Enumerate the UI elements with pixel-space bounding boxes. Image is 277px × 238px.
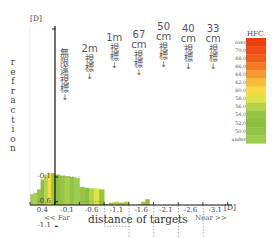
legend-label: 52.0 [229,121,246,126]
legend-label: 68.0 [229,56,246,61]
target-label: 50cm視標↓ [154,22,174,69]
legend-label: 60.0 [229,88,246,93]
data-bar [65,176,70,205]
data-bar [74,178,79,205]
legend-swatch [246,54,266,62]
x-tick-label: -0.1 [55,206,79,214]
legend-swatch [246,46,266,54]
legend-swatch [246,111,266,119]
legend-title: HFC [247,30,263,38]
target-label: 1m視標↓ [104,33,124,70]
legend-label: 66.0 [229,64,246,69]
y-tick-label: -0.1 [27,172,51,180]
target-label: 無限遠視標↓ [55,48,75,102]
x-unit-label: [D] [224,203,236,212]
legend-swatch [246,135,266,143]
legend-swatch [246,79,266,87]
legend-swatch [246,38,266,46]
x-axis-label: distance of targets [88,213,188,225]
data-bar [94,188,99,205]
data-bar [145,199,150,205]
legend-label: over [229,40,246,45]
data-bar [89,188,94,205]
far-direction-label: << Far [44,214,70,222]
legend-label: 62.0 [229,80,246,85]
legend-label: 56.0 [229,104,246,109]
legend-swatch [246,127,266,135]
data-bar [70,177,75,205]
legend-label: 70.0 [229,48,246,53]
target-label: 67cm視標↓ [129,30,149,77]
legend-swatch [246,62,266,70]
legend-swatch [246,87,266,95]
legend-swatch [246,119,266,127]
y-tick-label: -1.1 [27,221,51,229]
y-axis-label: refraction [6,58,20,154]
y-tick-label: -0.6 [27,197,51,205]
legend-label: under [229,137,246,142]
legend-swatch [246,70,266,78]
data-bar [99,189,104,205]
data-bar [84,188,89,205]
legend-swatch [246,95,266,103]
legend-label: 54.0 [229,112,246,117]
x-tick-label: 0.4 [30,206,54,214]
near-direction-label: Near >> [195,214,227,222]
legend-swatch [246,103,266,111]
target-label: 33cm視標↓ [203,24,223,71]
target-label: 40cm視標↓ [178,24,198,71]
legend-label: 64.0 [229,72,246,77]
legend-label: 58.0 [229,96,246,101]
legend-label: 50.0 [229,129,246,134]
data-bar [79,187,84,205]
data-bar [60,176,65,205]
y-unit-label: [D] [30,14,42,23]
target-label: 2m視標↓ [80,44,100,81]
